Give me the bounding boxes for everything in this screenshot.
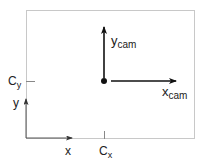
image-x-label: x — [65, 144, 71, 158]
cy-label: Cy — [8, 74, 22, 90]
y-cam-label: ycam — [111, 33, 136, 50]
image-y-label: y — [13, 96, 19, 110]
image-frame — [27, 11, 195, 139]
x-cam-label: xcam — [162, 84, 187, 101]
cx-label: Cx — [99, 144, 113, 160]
principal-point-dot — [101, 78, 107, 84]
camera-frame-diagram: ycam xcam Cy y x Cx — [0, 0, 204, 166]
